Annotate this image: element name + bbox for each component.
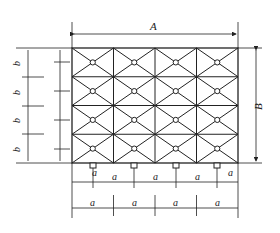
- label-b-4: b: [11, 147, 22, 152]
- label-b-1: b: [11, 61, 22, 66]
- label-a-half-right: a: [228, 167, 233, 178]
- label-a-bottom-4: a: [215, 197, 220, 208]
- label-a-1: a: [112, 171, 117, 182]
- label-B: B: [252, 103, 264, 110]
- dimension-lines: [16, 22, 262, 218]
- supports: [90, 163, 220, 168]
- label-b-3: b: [11, 118, 22, 123]
- label-A: A: [149, 20, 157, 32]
- space-frame-diagram: A B b b b b a a a a a a a a a: [0, 0, 280, 233]
- label-a-half-left: a: [92, 167, 97, 178]
- label-a-2: a: [153, 171, 158, 182]
- label-a-bottom-2: a: [132, 197, 137, 208]
- label-b-2: b: [11, 90, 22, 95]
- grid-frame: [72, 48, 238, 163]
- label-a-bottom-1: a: [90, 197, 95, 208]
- label-a-3: a: [195, 171, 200, 182]
- label-a-bottom-3: a: [173, 197, 178, 208]
